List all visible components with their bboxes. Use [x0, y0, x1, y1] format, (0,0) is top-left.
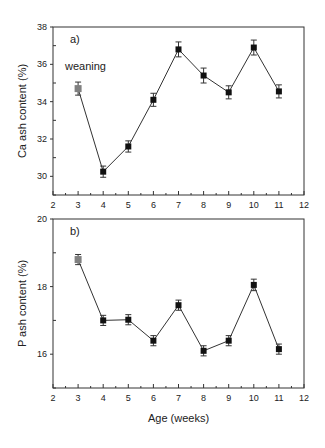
data-marker: [150, 97, 156, 103]
x-tick-label: 3: [76, 393, 81, 403]
y-tick-label: 16: [37, 349, 47, 359]
y-tick-label: 30: [37, 171, 47, 181]
weaning-marker: [75, 85, 82, 92]
data-marker: [201, 348, 207, 354]
data-marker: [176, 46, 182, 52]
panel-label: a): [70, 33, 80, 45]
weaning-annotation: weaning: [64, 60, 106, 72]
x-tick-label: 7: [176, 393, 181, 403]
x-tick-label: 11: [274, 393, 283, 403]
x-tick-label: 10: [249, 200, 259, 210]
x-tick-label: 2: [50, 393, 55, 403]
data-marker: [226, 338, 232, 344]
y-tick-label: 36: [37, 59, 47, 69]
x-tick-label: 5: [126, 200, 131, 210]
data-marker: [226, 89, 232, 95]
x-tick-label: 2: [50, 200, 55, 210]
x-tick-label: 8: [201, 393, 206, 403]
y-tick-label: 32: [37, 134, 47, 144]
x-tick-label: 4: [101, 393, 106, 403]
panel-label: b): [70, 225, 80, 237]
x-tick-label: 6: [151, 393, 156, 403]
data-marker: [201, 73, 207, 79]
y-tick-label: 38: [37, 22, 47, 32]
y-axis-label: Ca ash content (%): [16, 64, 28, 158]
data-marker: [100, 169, 106, 175]
data-marker: [176, 302, 182, 308]
data-marker: [150, 338, 156, 344]
data-marker: [125, 317, 131, 323]
x-tick-label: 10: [249, 393, 259, 403]
data-marker: [276, 88, 282, 94]
weaning-marker: [75, 256, 82, 263]
x-tick-label: 7: [176, 200, 181, 210]
data-line: [78, 48, 279, 172]
x-tick-label: 3: [76, 200, 81, 210]
figure: 234567891011123032343638Ca ash content (…: [0, 0, 325, 448]
y-tick-label: 20: [37, 214, 47, 224]
x-tick-label: 9: [226, 200, 231, 210]
panel-b-p-ash: 23456789101112161820P ash content (%)Age…: [16, 214, 309, 424]
data-marker: [100, 317, 106, 323]
x-axis-label: Age (weeks): [148, 412, 209, 424]
x-tick-label: 6: [151, 200, 156, 210]
y-axis-label: P ash content (%): [16, 260, 28, 347]
x-tick-label: 12: [299, 200, 309, 210]
data-marker: [251, 282, 257, 288]
x-tick-label: 9: [226, 393, 231, 403]
y-tick-label: 34: [37, 97, 47, 107]
data-marker: [251, 45, 257, 51]
panel-a-ca-ash: 234567891011123032343638Ca ash content (…: [16, 22, 309, 210]
x-tick-label: 12: [299, 393, 309, 403]
x-tick-label: 8: [201, 200, 206, 210]
x-tick-label: 5: [126, 393, 131, 403]
data-marker: [276, 346, 282, 352]
x-tick-label: 11: [274, 200, 283, 210]
y-tick-label: 18: [37, 282, 47, 292]
x-tick-label: 4: [101, 200, 106, 210]
data-marker: [125, 143, 131, 149]
